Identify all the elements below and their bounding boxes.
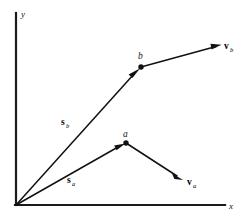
vector-v-b-arrowhead (210, 44, 221, 50)
vector-s-a-label-main: s (67, 175, 71, 185)
vector-s-b-label-main: s (61, 117, 65, 127)
vector-diagram-figure: y x a b s a s b v a v b (0, 0, 243, 222)
point-b-label: b (138, 51, 143, 61)
vector-s-a-label-sub: a (72, 180, 75, 187)
point-a-label: a (123, 129, 128, 139)
vector-v-b-label-sub: b (230, 46, 234, 53)
vector-s-b-label-sub: b (66, 122, 70, 129)
y-axis-label: y (20, 9, 25, 19)
vector-v-b-shaft (141, 47, 216, 68)
vector-s-a-arrowhead (114, 144, 125, 151)
vector-s-a-label: s a (67, 175, 75, 187)
vector-s-b-arrowhead (129, 68, 141, 78)
vector-v-b-label-main: v (224, 41, 229, 51)
vector-v-a-label: v a (187, 177, 196, 189)
vector-s-b-label: s b (61, 117, 70, 129)
x-axis-label: x (228, 201, 233, 211)
vector-v-a-shaft (126, 143, 177, 176)
diagram-canvas: y x a b s a s b v a v b (0, 0, 243, 222)
point-b-dot (138, 64, 143, 69)
vector-v-a-label-sub: a (193, 182, 196, 189)
vector-v-b-label: v b (224, 41, 234, 53)
point-a-dot (123, 140, 128, 145)
vector-v-a-label-main: v (187, 177, 192, 187)
